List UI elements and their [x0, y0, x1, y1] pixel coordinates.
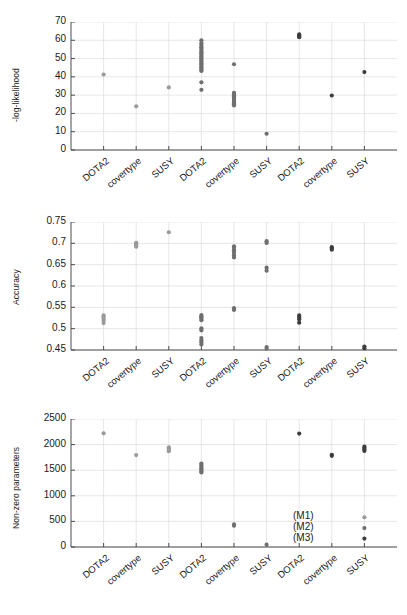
y-axis-tick-label: 0.55: [47, 300, 66, 311]
y-axis-tick-label: 2500: [44, 412, 66, 423]
data-point: [297, 321, 301, 325]
y-axis-tick-label: 20: [55, 106, 66, 117]
data-point: [134, 245, 138, 249]
data-point: [232, 255, 236, 259]
data-point: [102, 431, 106, 435]
data-point: [330, 454, 334, 458]
y-axis-tick-label: 1000: [44, 489, 66, 500]
y-axis-title: -log-likelihood: [11, 68, 21, 122]
data-point: [362, 346, 366, 350]
y-axis-tick-label: 70: [55, 15, 66, 26]
data-point: [102, 72, 106, 76]
legend-label-m1: (M1): [293, 510, 314, 521]
y-axis-tick-label: 50: [55, 52, 66, 63]
data-point: [330, 93, 334, 97]
data-point: [362, 70, 366, 74]
legend-marker-dot: [362, 526, 366, 530]
data-point: [265, 269, 269, 273]
data-point: [134, 453, 138, 457]
legend-label-m3: (M3): [293, 532, 314, 543]
y-axis-tick-label: 0: [60, 143, 66, 154]
data-point: [265, 543, 269, 547]
y-axis-tick-label: 500: [49, 514, 66, 525]
legend-label-m2: (M2): [293, 521, 314, 532]
y-axis-tick-label: 40: [55, 70, 66, 81]
data-point: [199, 470, 203, 474]
y-axis-tick-label: 30: [55, 88, 66, 99]
data-point: [265, 132, 269, 136]
data-point: [297, 431, 301, 435]
chart-panel-3: 05001000150020002500Non-zero parametersD…: [0, 419, 407, 609]
data-point: [232, 103, 236, 107]
chart-panel-1: 010203040506070-log-likelihoodDOTA2cover…: [0, 22, 407, 212]
y-axis-tick-label: 0.6: [52, 279, 66, 290]
data-point: [362, 449, 366, 453]
data-point: [330, 248, 334, 252]
y-axis-tick-label: 1500: [44, 463, 66, 474]
chart-panel-2: 0.450.50.550.60.650.70.75AccuracyDOTA2co…: [0, 222, 407, 412]
data-point: [265, 241, 269, 245]
data-point: [199, 318, 203, 322]
y-axis-title: Accuracy: [11, 269, 21, 305]
data-point: [232, 524, 236, 528]
y-axis-tick-label: 0.75: [47, 215, 66, 226]
y-axis-tick-label: 60: [55, 33, 66, 44]
y-axis-tick-label: 10: [55, 125, 66, 136]
data-point: [199, 80, 203, 84]
y-axis-title: Non-zero parameters: [11, 446, 21, 528]
y-axis-tick-label: 0: [60, 540, 66, 551]
data-point: [102, 321, 106, 325]
data-point: [232, 62, 236, 66]
data-point: [167, 449, 171, 453]
data-point: [199, 328, 203, 332]
data-point: [265, 347, 269, 351]
figure-root: 010203040506070-log-likelihoodDOTA2cover…: [0, 0, 407, 615]
data-point: [232, 308, 236, 312]
legend-marker-dot: [362, 536, 366, 540]
legend-marker-dot: [362, 515, 366, 519]
y-axis-tick-label: 0.5: [52, 322, 66, 333]
data-point: [167, 230, 171, 234]
data-point: [297, 35, 301, 39]
data-point: [199, 88, 203, 92]
data-point: [167, 85, 171, 89]
y-axis-tick-label: 0.45: [47, 343, 66, 354]
y-axis-tick-label: 0.7: [52, 236, 66, 247]
data-point: [199, 69, 203, 73]
data-point: [199, 342, 203, 346]
y-axis-tick-label: 2000: [44, 438, 66, 449]
data-point: [134, 104, 138, 108]
y-axis-tick-label: 0.65: [47, 258, 66, 269]
